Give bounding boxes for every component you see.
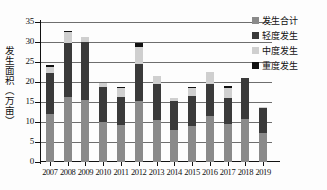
bar-segment[interactable] <box>46 114 54 162</box>
bar-group[interactable] <box>99 22 107 162</box>
x-tick-mark <box>68 162 69 166</box>
bar-segment[interactable] <box>170 98 178 100</box>
bar-segment[interactable] <box>259 107 267 108</box>
bar-group[interactable] <box>241 22 249 162</box>
bar-group[interactable] <box>117 22 125 162</box>
bar-segment[interactable] <box>153 84 161 120</box>
bar-segment[interactable] <box>81 100 89 162</box>
bar-segment[interactable] <box>170 130 178 162</box>
y-tick: 5 <box>0 137 34 146</box>
y-tick-label: 10 <box>0 117 34 126</box>
legend-swatch-icon <box>252 32 259 39</box>
bar-group[interactable] <box>188 22 196 162</box>
x-tick-label: 2019 <box>252 168 274 177</box>
y-tick-label: 35 <box>0 17 34 26</box>
bar-group[interactable] <box>64 22 72 162</box>
bar-segment[interactable] <box>206 116 214 162</box>
y-tick: 0 <box>0 157 34 166</box>
bar-segment[interactable] <box>206 84 214 116</box>
legend-swatch-icon <box>252 62 259 69</box>
y-tick: 25 <box>0 57 34 66</box>
bar-segment[interactable] <box>135 43 143 47</box>
x-tick-mark <box>210 162 211 166</box>
bar-group[interactable] <box>81 22 89 162</box>
bar-segment[interactable] <box>224 124 232 162</box>
plot-area <box>41 22 272 162</box>
bar-segment[interactable] <box>64 31 72 32</box>
y-tick-label: 20 <box>0 77 34 86</box>
x-tick-mark <box>103 162 104 166</box>
bar-segment[interactable] <box>224 98 232 124</box>
bar-segment[interactable] <box>188 96 196 126</box>
x-tick-mark <box>245 162 246 166</box>
y-tick: 20 <box>0 77 34 86</box>
y-tick: 10 <box>0 117 34 126</box>
bar-segment[interactable] <box>259 108 267 133</box>
y-tick: 35 <box>0 17 34 26</box>
bar-group[interactable] <box>224 22 232 162</box>
legend-item[interactable]: 重度发生 <box>252 58 326 73</box>
y-tick-mark <box>35 162 41 163</box>
bar-segment[interactable] <box>188 87 196 88</box>
bar-segment[interactable] <box>241 78 249 119</box>
bar-segment[interactable] <box>117 125 125 162</box>
x-tick-mark <box>192 162 193 166</box>
legend-item[interactable]: 中度发生 <box>252 43 326 58</box>
bar-segment[interactable] <box>206 72 214 84</box>
bar-segment[interactable] <box>46 65 54 67</box>
y-tick-label: 30 <box>0 37 34 46</box>
bar-segment[interactable] <box>153 120 161 162</box>
legend-item[interactable]: 发生合计 <box>252 13 326 28</box>
bar-group[interactable] <box>46 22 54 162</box>
x-tick-mark <box>139 162 140 166</box>
bar-segment[interactable] <box>81 37 89 42</box>
bar-segment[interactable] <box>46 73 54 114</box>
bar-segment[interactable] <box>64 43 72 97</box>
legend-swatch-icon <box>252 17 259 24</box>
legend-item-label: 轻度发生 <box>262 31 298 41</box>
bar-segment[interactable] <box>135 101 143 162</box>
bar-segment[interactable] <box>99 122 107 162</box>
bar-segment[interactable] <box>188 126 196 162</box>
legend-item-label: 发生合计 <box>262 16 298 26</box>
bar-segment[interactable] <box>170 101 178 130</box>
bar-segment[interactable] <box>81 42 89 100</box>
bar-segment[interactable] <box>117 87 125 88</box>
bar-segment[interactable] <box>224 88 232 98</box>
bar-segment[interactable] <box>64 97 72 162</box>
bar-segment[interactable] <box>99 83 107 87</box>
bar-segment[interactable] <box>99 87 107 122</box>
chart-container: 发生面积（万亩） 05101520253035 2007200820092010… <box>0 0 327 190</box>
bar-segment[interactable] <box>117 88 125 97</box>
legend-item[interactable]: 轻度发生 <box>252 28 326 43</box>
bar-segment[interactable] <box>117 97 125 125</box>
bar-group[interactable] <box>135 22 143 162</box>
bar-segment[interactable] <box>188 88 196 96</box>
y-tick-label: 15 <box>0 97 34 106</box>
bar-segment[interactable] <box>46 67 54 73</box>
legend-swatch-icon <box>252 47 259 54</box>
bar-segment[interactable] <box>153 76 161 84</box>
x-tick-mark <box>121 162 122 166</box>
bar-group[interactable] <box>206 22 214 162</box>
bar-segment[interactable] <box>64 32 72 43</box>
bar-group[interactable] <box>153 22 161 162</box>
y-tick: 15 <box>0 97 34 106</box>
y-tick-label: 0 <box>0 157 34 166</box>
bar-segment[interactable] <box>241 119 249 162</box>
x-tick-mark <box>85 162 86 166</box>
chart-legend: 发生合计轻度发生中度发生重度发生 <box>252 13 326 73</box>
legend-item-label: 重度发生 <box>262 61 298 71</box>
x-tick-mark <box>263 162 264 166</box>
x-tick-mark <box>174 162 175 166</box>
bar-segment[interactable] <box>259 133 267 162</box>
bar-segment[interactable] <box>135 47 143 65</box>
y-tick: 30 <box>0 37 34 46</box>
bar-segment[interactable] <box>135 64 143 101</box>
bar-segment[interactable] <box>224 86 232 88</box>
bar-group[interactable] <box>170 22 178 162</box>
y-tick-label: 5 <box>0 137 34 146</box>
x-tick-mark <box>50 162 51 166</box>
x-tick-mark <box>157 162 158 166</box>
legend-item-label: 中度发生 <box>262 46 298 56</box>
